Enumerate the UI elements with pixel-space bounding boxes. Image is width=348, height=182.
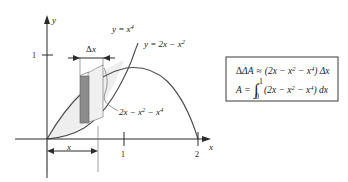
figure-canvas: y 1 x 1 2 x Δx y = x4 bbox=[0, 0, 348, 182]
riemann-strip-dark bbox=[80, 76, 89, 123]
x-tick-1-label: 1 bbox=[121, 150, 125, 159]
parabola-curve-label: y = 2x − x2 bbox=[143, 38, 186, 49]
formula-integrand: (2x − x2 − x4) dx bbox=[264, 84, 329, 96]
y-axis-label: y bbox=[51, 15, 56, 25]
delta-x-label: Δx bbox=[86, 44, 96, 54]
x-bracket-arrow-right bbox=[91, 148, 98, 154]
strip-height-label: 2x − x2 − x4 bbox=[119, 106, 164, 117]
x-bracket-arrow-left bbox=[47, 148, 54, 154]
formula-line-1: ΔΔA≈(2x − x2 − x4) Δx bbox=[236, 65, 330, 77]
formula-integral-lower-limit: 0 bbox=[255, 92, 259, 101]
area-between-curves-figure: y 1 x 1 2 x Δx y = x4 bbox=[0, 0, 348, 182]
delta-x-arrow-left bbox=[73, 55, 80, 61]
formula-integral-upper-limit: 1 bbox=[259, 77, 263, 86]
y-tick-1-label: 1 bbox=[32, 51, 36, 60]
quartic-curve-label: y = x4 bbox=[111, 23, 135, 34]
x-tick-2-label: 2 bbox=[195, 150, 199, 159]
riemann-strip-light bbox=[88, 65, 103, 122]
riemann-strip-dark-top bbox=[80, 72, 89, 76]
y-axis-arrow bbox=[44, 15, 50, 24]
delta-x-arrow-right bbox=[103, 55, 110, 61]
x-axis-label: x bbox=[208, 142, 213, 152]
x-bracket-label: x bbox=[66, 142, 71, 152]
